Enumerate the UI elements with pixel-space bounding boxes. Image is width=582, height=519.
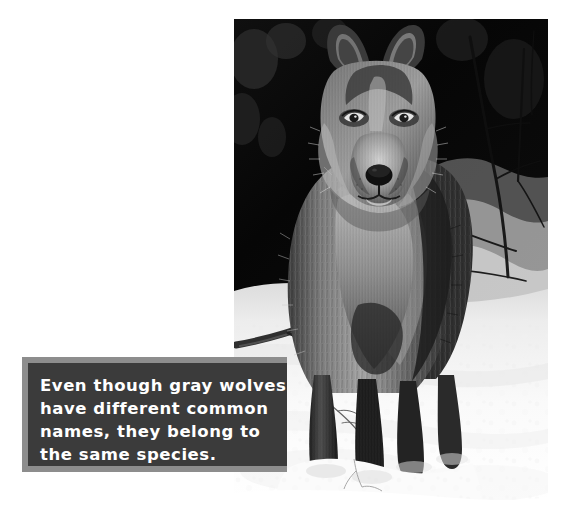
caption-callout: Even though gray wolves have different c…: [22, 357, 293, 472]
caption-line-2: have different common: [40, 397, 287, 420]
caption-line-4: the same species.: [40, 443, 287, 466]
caption-line-1: Even though gray wolves: [40, 374, 287, 397]
caption-box: Even though gray wolves have different c…: [28, 363, 287, 466]
page-canvas: Even though gray wolves have different c…: [0, 0, 582, 519]
caption-line-3: names, they belong to: [40, 420, 287, 443]
